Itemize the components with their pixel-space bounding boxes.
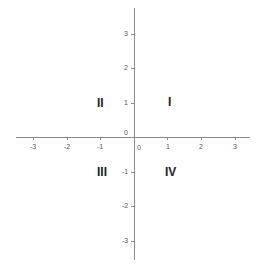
x-tick-label: 2 [199, 143, 203, 151]
y-tick [131, 34, 134, 35]
quadrant-1-label: I [168, 96, 171, 108]
x-tick-label: -3 [30, 143, 36, 151]
y-tick [131, 206, 134, 207]
x-tick-label: 3 [233, 143, 237, 151]
y-tick-label: -1 [122, 168, 128, 176]
quadrant-3-label: III [97, 166, 107, 178]
x-tick [67, 137, 68, 140]
x-tick-label: -2 [64, 143, 70, 151]
y-tick-label: 0 [124, 129, 128, 137]
y-tick-label: 1 [124, 99, 128, 107]
y-tick [131, 68, 134, 69]
y-tick-label: 2 [124, 64, 128, 72]
x-tick [167, 137, 168, 140]
x-tick [235, 137, 236, 140]
x-tick [33, 137, 34, 140]
y-tick [131, 241, 134, 242]
x-tick [100, 137, 101, 140]
y-tick-label: -2 [122, 202, 128, 210]
x-tick [201, 137, 202, 140]
x-tick-label: 1 [166, 143, 170, 151]
quadrant-2-label: II [97, 97, 104, 109]
y-tick [131, 172, 134, 173]
y-axis [134, 8, 135, 260]
quadrant-4-label: IV [165, 166, 176, 178]
y-tick-label: -3 [122, 237, 128, 245]
y-tick [131, 103, 134, 104]
x-axis [16, 137, 250, 138]
x-tick-label: 0 [137, 144, 141, 152]
y-tick-label: 3 [124, 30, 128, 38]
x-tick-label: -1 [97, 143, 103, 151]
